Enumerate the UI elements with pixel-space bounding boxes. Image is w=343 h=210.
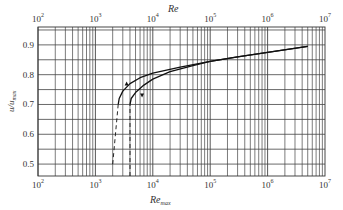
x-tick-label: 104 [147,178,159,190]
y-tick-label: 0.5 [8,159,34,169]
top-tick-label: 104 [147,12,159,24]
y-tick-label: 0.9 [8,40,34,50]
grid [38,27,325,176]
plot-frame [38,27,325,176]
top-tick-label: 105 [204,12,216,24]
top-tick-label: 103 [89,12,101,24]
top-tick-label: 107 [319,12,331,24]
x-tick-label: 107 [319,178,331,190]
y-tick-label: 0.8 [8,70,34,80]
x-tick-label: 106 [262,178,274,190]
chart-svg [0,0,343,210]
x-tick-label: 103 [89,178,101,190]
y-tick-label: 0.6 [8,129,34,139]
top-axis-title: Re [168,3,179,14]
x-axis-title: Remax [150,194,171,206]
x-tick-label: 105 [204,178,216,190]
top-tick-label: 106 [262,12,274,24]
x-tick-label: 102 [32,178,44,190]
top-tick-label: 102 [32,12,44,24]
y-axis-title: u/umax [6,90,17,112]
